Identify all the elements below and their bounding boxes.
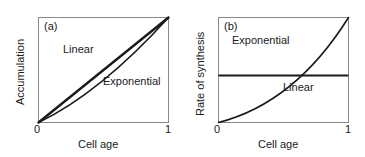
panel-b-y-axis-title: Rate of synthesis [194, 32, 206, 116]
panel-a-xtick-min: 0 [34, 124, 40, 135]
panel-b-x-axis-title: Cell age [258, 139, 298, 150]
panel-a: (a) Linear Exponential Accumulation 0 1 … [0, 0, 182, 157]
panel-a-linear-line [39, 18, 169, 123]
panel-a-tag: (a) [44, 21, 57, 32]
panel-b-plot [183, 0, 365, 157]
panel-a-linear-label: Linear [63, 44, 94, 55]
panel-b: (b) Exponential Linear Rate of synthesis… [183, 0, 365, 157]
panel-a-xtick-max: 1 [165, 124, 171, 135]
panel-b-exponential-label: Exponential [232, 35, 290, 46]
panel-b-xtick-max: 1 [345, 124, 351, 135]
panel-b-tag: (b) [224, 21, 237, 32]
figure-container: (a) Linear Exponential Accumulation 0 1 … [0, 0, 365, 157]
panel-a-y-axis-title: Accumulation [14, 39, 26, 105]
panel-a-exponential-label: Exponential [103, 76, 161, 87]
panel-b-xtick-min: 0 [214, 124, 220, 135]
panel-b-linear-label: Linear [283, 82, 314, 93]
panel-a-x-axis-title: Cell age [78, 139, 118, 150]
